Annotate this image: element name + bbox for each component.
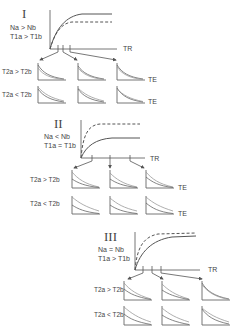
condition-n: Na < Nb <box>44 133 70 140</box>
x-axis-label-te: TE <box>148 76 157 83</box>
panel-numeral: II <box>54 116 63 131</box>
x-axis-label-tr: TR <box>150 155 159 162</box>
tr-recovery-plot: TR <box>128 232 217 279</box>
row-label: T2a > T2b <box>2 68 32 75</box>
panel-i: I Na > Nb T1a > T1b TR T2a > T2b T2a < T… <box>2 6 157 105</box>
x-axis-label-te: TE <box>178 210 187 217</box>
te-decay-row-1 <box>124 281 230 300</box>
x-axis-label-te: TE <box>148 98 157 105</box>
x-axis-label-te: TE <box>178 184 187 191</box>
te-decay-row-2: TE <box>38 86 157 105</box>
panel-numeral: III <box>104 229 117 244</box>
panel-iii: III Na = Nb T1a > T1b TR T2a > T2b T2a <… <box>94 229 230 325</box>
condition-n: Na > Nb <box>10 24 36 31</box>
x-axis-label-tr: TR <box>208 266 217 273</box>
row-label: T2a < T2b <box>94 311 124 318</box>
mri-signal-diagram: I Na > Nb T1a > T1b TR T2a > T2b T2a < T… <box>0 0 232 332</box>
row-label: T2a > T2b <box>30 176 60 183</box>
te-decay-row-2 <box>124 306 230 325</box>
row-label: T2a < T2b <box>30 200 60 207</box>
row-label: T2a > T2b <box>94 286 124 293</box>
row-label: T2a < T2b <box>2 91 32 98</box>
x-axis-label-tr: TR <box>123 45 132 52</box>
te-decay-row-1: TE <box>72 170 187 191</box>
panel-ii: II Na < Nb T1a = T1b TR T2a > T2b T2a < … <box>30 116 187 217</box>
te-decay-row-2: TE <box>72 196 187 217</box>
condition-t1: T1a > T1b <box>98 255 130 262</box>
condition-n: Na = Nb <box>98 246 124 253</box>
condition-t1: T1a > T1b <box>10 33 42 40</box>
tr-recovery-plot: TR <box>74 120 159 168</box>
panel-numeral: I <box>22 6 26 21</box>
condition-t1: T1a = T1b <box>44 142 76 149</box>
tr-recovery-plot: TR <box>40 10 132 60</box>
te-decay-row-1: TE <box>38 63 157 83</box>
